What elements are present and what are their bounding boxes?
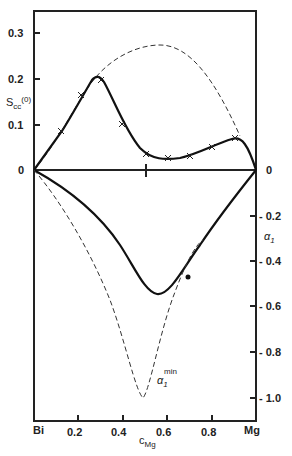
lower-solid-curve (34, 170, 256, 294)
lower-dashed-curve (34, 170, 203, 398)
upper-y-axis-title: Scc(0) (6, 95, 31, 111)
right-tick-label: 0 (266, 164, 272, 176)
x-axis-title: cMg (139, 434, 156, 449)
right-tick-label: - 0.2 (259, 210, 281, 222)
chart-canvas: 0.3 0.2 0.1 0 Scc(0) 0 - 0.2 - 0.4 - 0.6… (0, 0, 292, 456)
lower-data-point (186, 275, 191, 280)
left-tick-label: 0.3 (8, 27, 23, 39)
x-tick-label: 0.6 (156, 426, 171, 438)
right-tick-label: - 0.6 (259, 300, 281, 312)
alpha-min-annotation: α1 (157, 374, 168, 389)
upper-dashed-curve (34, 45, 240, 170)
x-tick-label: 0.4 (111, 426, 127, 438)
lower-y-axis-title: α1 (264, 230, 275, 245)
upper-solid-curve (34, 77, 256, 170)
x-tick-label: 0.2 (67, 426, 82, 438)
left-tick-label: 0.2 (8, 73, 23, 85)
left-tick-label: 0 (18, 164, 24, 176)
x-right-label: Mg (244, 424, 260, 436)
left-tick-label: 0.1 (8, 119, 23, 131)
right-tick-label: - 0.4 (259, 255, 282, 267)
x-left-label: Bi (33, 424, 44, 436)
upper-data-markers (58, 77, 238, 161)
right-tick-label: - 0.8 (259, 346, 281, 358)
right-tick-label: - 1.0 (259, 392, 281, 404)
alpha-min-superscript: min (164, 367, 177, 376)
x-tick-label: 0.8 (201, 426, 216, 438)
